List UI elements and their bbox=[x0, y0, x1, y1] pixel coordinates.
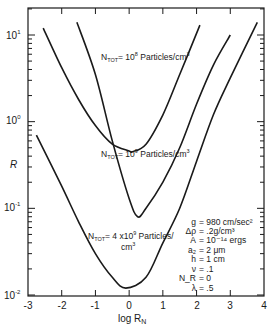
svg-text:A: A bbox=[190, 235, 196, 245]
annotation-curve-1e8: NTOT= 108 Particles/cm3 bbox=[101, 51, 190, 63]
y-tick-0: 100 bbox=[6, 114, 21, 126]
svg-text:h: h bbox=[191, 254, 196, 264]
svg-text:0: 0 bbox=[126, 300, 132, 311]
x-axis-label: log RN bbox=[118, 313, 146, 324]
svg-text:1: 1 bbox=[160, 300, 166, 311]
svg-text:-3: -3 bbox=[24, 300, 33, 311]
svg-text:= 0: = 0 bbox=[199, 273, 211, 283]
chart: 101 100 10-1 10-2 R -3 -2 -1 0 1 2 3 4 l… bbox=[0, 0, 273, 324]
svg-text:4: 4 bbox=[261, 300, 267, 311]
annotation-curve-4e9-line2: cm3 bbox=[121, 241, 135, 252]
svg-text:3: 3 bbox=[227, 300, 233, 311]
y-tick-1: 101 bbox=[6, 29, 21, 41]
annotation-curve-4e9: NTOT= 4 x109 Particles/ bbox=[88, 230, 174, 242]
curve-series-0 bbox=[43, 25, 200, 152]
y-axis-label: R bbox=[10, 159, 17, 170]
svg-text:N_R: N_R bbox=[179, 273, 196, 283]
y-tick-minus2: 10-2 bbox=[4, 289, 21, 301]
svg-text:λ: λ bbox=[192, 283, 197, 293]
y-tick-minus1: 10-1 bbox=[4, 201, 21, 213]
parameter-block: g = 980 cm/sec² Δρ = .2g/cm³ A = 10⁻¹⁴ e… bbox=[179, 217, 253, 293]
x-tick-labels: -3 -2 -1 0 1 2 3 4 bbox=[24, 300, 268, 311]
svg-text:-1: -1 bbox=[91, 300, 100, 311]
svg-text:= 10⁻¹⁴ ergs: = 10⁻¹⁴ ergs bbox=[199, 235, 246, 245]
svg-text:= 1 cm: = 1 cm bbox=[199, 254, 225, 264]
svg-text:-2: -2 bbox=[58, 300, 67, 311]
svg-text:2: 2 bbox=[194, 300, 200, 311]
svg-text:= .5: = .5 bbox=[199, 283, 214, 293]
